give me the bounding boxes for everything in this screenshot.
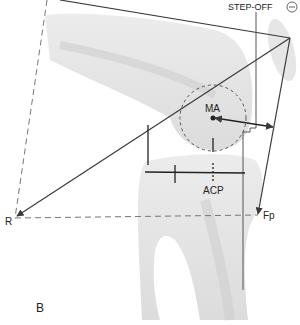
patella-bone bbox=[262, 16, 300, 84]
label-r: R bbox=[5, 216, 12, 227]
knee-diagram: STEP-OFF MA ACP R Fp B bbox=[0, 0, 300, 325]
label-acp: ACP bbox=[203, 185, 224, 196]
diagram-canvas: STEP-OFF MA ACP R Fp B bbox=[0, 0, 300, 325]
label-step-off: STEP-OFF bbox=[228, 2, 273, 12]
tibia-bone bbox=[138, 154, 262, 320]
label-fp: Fp bbox=[263, 210, 275, 221]
dashed-line-vertical bbox=[15, 0, 47, 218]
panel-label: B bbox=[36, 301, 44, 315]
ma-point bbox=[211, 116, 216, 121]
label-ma: MA bbox=[205, 103, 220, 114]
